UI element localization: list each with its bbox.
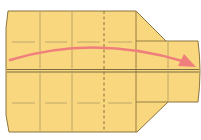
paper-outline [6, 11, 200, 132]
origami-diagram [0, 0, 201, 140]
